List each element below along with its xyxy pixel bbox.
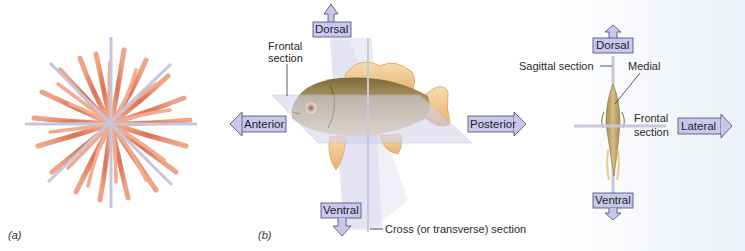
frontal-section-label-b-1: Frontal (268, 40, 302, 52)
frontal-section-label-b-2: section (268, 52, 303, 64)
medial-label: Medial (628, 60, 660, 72)
dorsal-label-b: Dorsal (315, 23, 348, 36)
ventral-label-b: Ventral (323, 204, 359, 217)
symmetry-planes (25, 37, 197, 208)
radial-animal (25, 37, 197, 208)
lateral-label: Lateral (681, 120, 716, 133)
panel-label-b: (b) (258, 229, 271, 241)
panel-label-a: (a) (8, 229, 21, 241)
ventral-label-c: Ventral (595, 194, 631, 207)
frontal-section-label-c-2: section (634, 126, 669, 138)
posterior-label: Posterior (470, 118, 516, 131)
fish-lateral (272, 38, 472, 232)
dorsal-label-c: Dorsal (596, 39, 629, 52)
sagittal-section-label: Sagittal section (519, 60, 594, 72)
cross-section-label: Cross (or transverse) section (385, 223, 526, 235)
anterior-label: Anterior (244, 118, 284, 131)
frontal-section-label-c-1: Frontal (634, 112, 668, 124)
